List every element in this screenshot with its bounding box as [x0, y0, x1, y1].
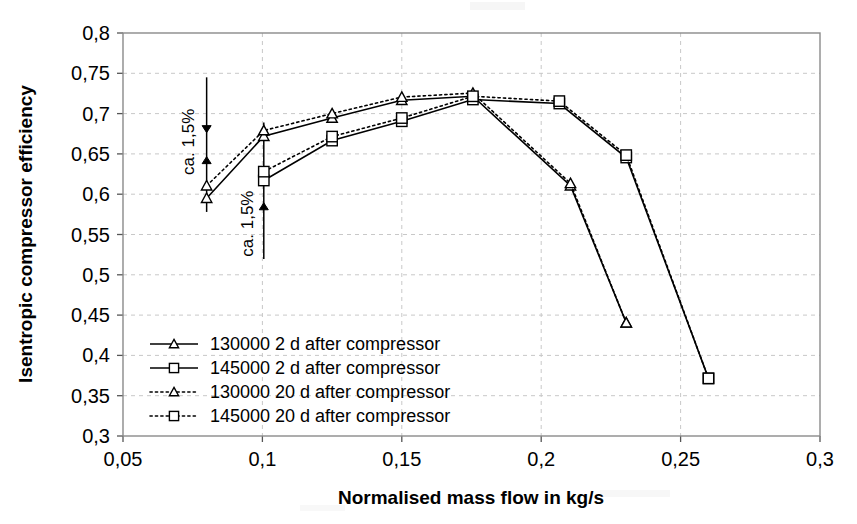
y-tick-label: 0,35	[71, 385, 110, 407]
y-tick-label: 0,5	[82, 264, 110, 286]
y-tick-label: 0,75	[71, 62, 110, 84]
error-annotation-label: ca. 1,5%	[179, 109, 198, 175]
y-tick-label: 0,7	[82, 103, 110, 125]
y-tick-label: 0,4	[82, 344, 110, 366]
y-tick-label: 0,65	[71, 143, 110, 165]
square-marker	[327, 131, 337, 141]
y-tick-label: 0,8	[82, 22, 110, 44]
y-tick-label: 0,3	[82, 425, 110, 447]
square-marker	[621, 150, 631, 160]
x-tick-label: 0,05	[104, 448, 143, 470]
y-tick-label: 0,55	[71, 224, 110, 246]
chart-figure: 0,30,350,40,450,50,550,60,650,70,750,8 0…	[0, 0, 857, 524]
legend-label: 130000 2 d after compressor	[210, 334, 440, 354]
x-tick-label: 0,3	[806, 448, 834, 470]
legend-label: 130000 20 d after compressor	[210, 382, 450, 402]
square-marker	[169, 363, 178, 372]
legend-label: 145000 2 d after compressor	[210, 358, 440, 378]
square-marker	[554, 96, 564, 106]
x-tick-label: 0,25	[661, 448, 700, 470]
x-tick-label: 0,15	[382, 448, 421, 470]
y-tick-label: 0,45	[71, 304, 110, 326]
square-marker	[703, 373, 713, 383]
square-marker	[397, 113, 407, 123]
square-marker	[259, 166, 269, 176]
x-tick-label: 0,2	[527, 448, 555, 470]
chart-svg: 0,30,350,40,450,50,550,60,650,70,750,8 0…	[0, 0, 857, 524]
square-marker	[468, 91, 478, 101]
chart-background	[0, 0, 857, 524]
y-axis-title: Isentropic compressor efficiency	[15, 85, 36, 383]
error-annotation-label: ca. 1,5%	[238, 191, 257, 257]
y-tick-label: 0,6	[82, 183, 110, 205]
x-tick-label: 0,1	[248, 448, 276, 470]
x-axis-title: Normalised mass flow in kg/s	[338, 487, 604, 508]
legend-label: 145000 20 d after compressor	[210, 406, 450, 426]
square-marker	[169, 411, 178, 420]
